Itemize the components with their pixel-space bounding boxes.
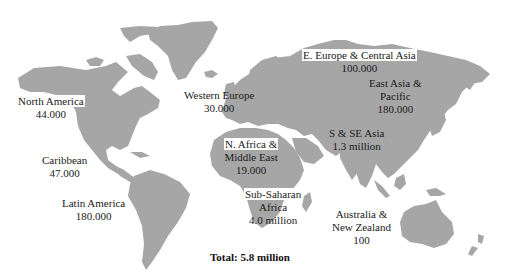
sumatra-shape: [374, 180, 390, 198]
region-name: North America: [17, 95, 85, 107]
region-label-east-asia-pacific: East Asia & Pacific 180.000: [369, 77, 422, 116]
region-label-sub-saharan-africa: Sub-Saharan Africa 4.0 million: [244, 188, 302, 227]
region-value: 100: [332, 234, 391, 247]
region-name-line1: Australia &: [332, 208, 391, 221]
australia-shape: [400, 200, 454, 248]
region-label-latin-america: Latin America 180.000: [62, 197, 125, 223]
region-label-australia-nz: Australia & New Zealand 100: [332, 208, 391, 247]
region-name-line1: N. Africa &: [224, 138, 278, 150]
region-name-line2: Pacific: [369, 90, 422, 103]
new-zealand-shape: [478, 234, 484, 244]
world-map: North America 44.000 Caribbean 47.000 La…: [0, 0, 509, 278]
region-label-n-africa-middle-east: N. Africa & Middle East 19.000: [224, 138, 278, 177]
region-name: Latin America: [62, 197, 125, 210]
region-name-line2: New Zealand: [332, 221, 391, 234]
region-value: 180.000: [369, 103, 422, 116]
region-name: S & SE Asia: [329, 127, 384, 140]
new-zealand-south-shape: [468, 246, 478, 256]
region-name: E. Europe & Central Asia: [302, 49, 417, 61]
total-label: Total: 5.8 million: [210, 251, 290, 263]
region-label-north-america: North America 44.000: [17, 95, 85, 121]
region-value: 4.0 million: [244, 214, 302, 227]
region-name-line2: Middle East: [224, 151, 278, 164]
borneo-shape: [394, 174, 406, 190]
region-name-line1: East Asia &: [369, 77, 422, 90]
new-guinea-shape: [426, 188, 446, 196]
region-name: Western Europe: [184, 89, 254, 102]
region-label-caribbean: Caribbean 47.000: [42, 154, 87, 180]
region-value: 44.000: [17, 108, 85, 121]
region-value: 47.000: [42, 167, 87, 180]
cuba-shape: [130, 152, 150, 158]
arctic-island-small-shape: [86, 57, 104, 66]
region-label-e-europe-central-asia: E. Europe & Central Asia 100.000: [302, 49, 417, 75]
region-value: 180.000: [62, 210, 125, 223]
region-name-line2: Africa: [244, 201, 302, 214]
region-label-s-se-asia: S & SE Asia 1.3 million: [329, 127, 384, 153]
region-name: Caribbean: [42, 154, 87, 167]
region-value: 19.000: [224, 164, 278, 177]
madagascar-shape: [302, 192, 312, 212]
region-name-line1: Sub-Saharan: [244, 188, 302, 200]
region-value: 1.3 million: [329, 140, 384, 153]
region-value: 100.000: [302, 62, 417, 75]
baffin-island-shape: [126, 54, 158, 80]
region-value: 30.000: [184, 102, 254, 115]
region-label-western-europe: Western Europe 30.000: [184, 89, 254, 115]
iceland-shape: [204, 70, 218, 78]
south-america-shape: [128, 170, 190, 270]
